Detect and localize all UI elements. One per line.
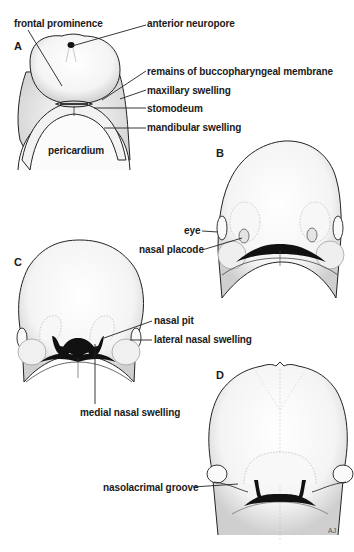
label-eye: eye — [184, 225, 200, 236]
artist-initials: AJ — [328, 527, 336, 534]
label-pericardium: pericardium — [48, 145, 104, 156]
label-maxillary-swelling: maxillary swelling — [147, 85, 231, 96]
label-lateral-nasal-swelling: lateral nasal swelling — [154, 334, 252, 345]
panel-c-drawing — [17, 240, 144, 382]
label-remains-buccopharyngeal-membrane: remains of buccopharyngeal membrane — [147, 66, 333, 77]
label-mandibular-swelling: mandibular swelling — [147, 122, 241, 133]
label-medial-nasal-swelling: medial nasal swelling — [80, 407, 180, 418]
embryo-face-development-figure — [0, 0, 354, 552]
panel-label-a: A — [14, 40, 22, 52]
label-nasal-pit: nasal pit — [154, 315, 194, 326]
panel-label-c: C — [14, 256, 22, 268]
panel-label-b: B — [216, 147, 224, 159]
panel-b-drawing — [217, 141, 344, 298]
panel-label-d: D — [216, 369, 224, 381]
label-frontal-prominence: frontal prominence — [14, 18, 103, 29]
panel-d-drawing — [207, 362, 353, 540]
label-nasal-placode: nasal placode — [139, 244, 204, 255]
label-stomodeum: stomodeum — [147, 103, 203, 114]
label-anterior-neuropore: anterior neuropore — [147, 18, 235, 29]
label-nasolacrimal-groove: nasolacrimal groove — [103, 482, 198, 493]
